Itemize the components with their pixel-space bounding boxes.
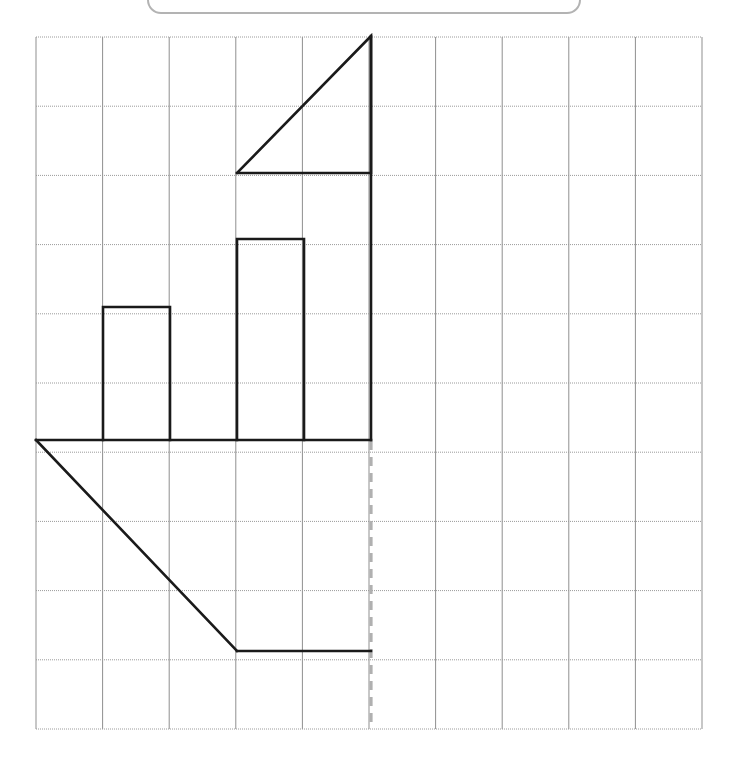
grid-canvas [0,0,731,760]
upper-triangle [237,36,371,173]
figure-solid-lines [36,36,371,651]
lower-diagonal [36,440,237,651]
worksheet-page [0,0,731,760]
bar-right [237,239,304,440]
figure-svg [0,0,731,760]
bar-left [103,307,170,440]
